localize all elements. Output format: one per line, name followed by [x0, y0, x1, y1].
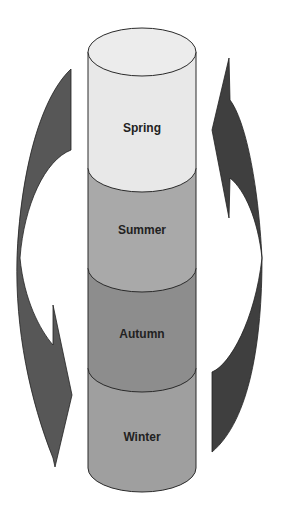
cycle-diagram: Spring Summer Autumn Winter [0, 0, 286, 521]
label-autumn: Autumn [119, 327, 164, 341]
label-spring: Spring [123, 121, 161, 135]
label-summer: Summer [118, 223, 166, 237]
left-down-arrow [17, 69, 72, 467]
label-winter: Winter [123, 430, 161, 444]
cylinder-top [88, 28, 196, 76]
right-up-arrow [212, 58, 262, 452]
